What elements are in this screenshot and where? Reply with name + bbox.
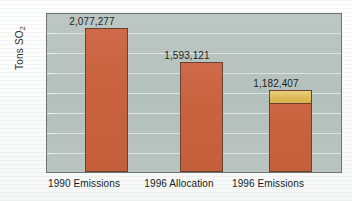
bar-value-label-1996-allocation: 1,593,121	[157, 50, 217, 61]
bar-1996-emissions[interactable]	[269, 90, 312, 172]
y-axis-label-text: Tons SO	[14, 30, 25, 70]
y-axis-tick	[47, 93, 54, 94]
category-label-1996-allocation: 1996 Allocation	[139, 178, 219, 189]
y-axis-label-subscript: 2	[18, 26, 27, 30]
bar-1990-emissions[interactable]	[85, 28, 128, 172]
y-axis-tick	[47, 113, 54, 114]
y-axis-tick	[47, 53, 54, 54]
bar-cap-segment	[270, 91, 311, 104]
bar-fill	[86, 29, 127, 171]
plot-area	[46, 13, 342, 173]
y-axis-tick	[47, 133, 54, 134]
bar-1996-allocation[interactable]	[180, 62, 223, 172]
bar-fill	[181, 63, 222, 171]
chart-figure: Tons SO2 2,077,277	[0, 0, 352, 201]
y-axis-tick	[47, 73, 54, 74]
bar-value-label-1990-emissions: 2,077,277	[62, 16, 122, 27]
category-label-1996-emissions: 1996 Emissions	[228, 178, 308, 189]
y-axis-label: Tons SO2	[14, 0, 32, 70]
y-axis-tick	[47, 33, 54, 34]
y-axis-tick	[47, 153, 54, 154]
bar-value-label-1996-emissions: 1,182,407	[246, 78, 306, 89]
category-label-1990-emissions: 1990 Emissions	[44, 178, 124, 189]
